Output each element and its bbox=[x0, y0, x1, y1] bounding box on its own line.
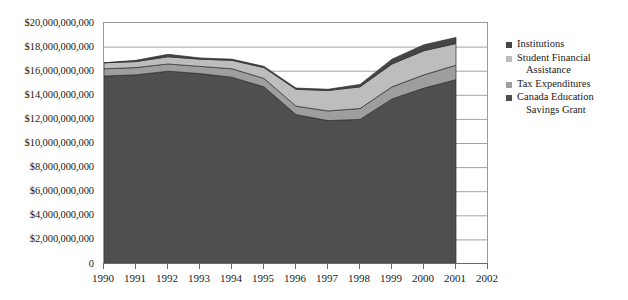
x-tick bbox=[199, 263, 200, 269]
x-tick bbox=[487, 263, 488, 269]
legend-label: Canada EducationSavings Grant bbox=[517, 91, 594, 116]
x-tick-label: 1991 bbox=[124, 272, 146, 285]
y-tick-label: $18,000,000,000 bbox=[25, 41, 94, 52]
legend-label: Institutions bbox=[517, 38, 564, 51]
x-tick bbox=[103, 263, 104, 269]
legend-item[interactable]: Tax Expenditures bbox=[506, 78, 626, 91]
legend-label-line2: Assistance bbox=[517, 64, 591, 77]
x-tick bbox=[327, 263, 328, 269]
x-axis-ticks bbox=[0, 263, 628, 271]
x-tick bbox=[135, 263, 136, 269]
x-tick-label: 1990 bbox=[92, 272, 114, 285]
legend-swatch-icon bbox=[506, 95, 512, 101]
plot-area bbox=[103, 22, 488, 264]
stacked-area-chart: $20,000,000,000 $18,000,000,000 $16,000,… bbox=[0, 0, 628, 300]
y-tick-label: $6,000,000,000 bbox=[30, 185, 94, 196]
x-tick bbox=[263, 263, 264, 269]
x-tick-label: 1994 bbox=[220, 272, 242, 285]
x-tick-label: 2001 bbox=[444, 272, 466, 285]
x-tick-label: 2000 bbox=[412, 272, 434, 285]
legend-swatch-icon bbox=[506, 82, 512, 88]
legend-item[interactable]: Institutions bbox=[506, 38, 626, 51]
x-tick bbox=[167, 263, 168, 269]
x-tick-label: 1999 bbox=[380, 272, 402, 285]
legend-label-line2: Savings Grant bbox=[517, 104, 594, 117]
x-axis: 1990199119921993199419951996199719981999… bbox=[0, 272, 628, 292]
y-tick-label: $12,000,000,000 bbox=[25, 113, 94, 124]
legend-label: Student FinancialAssistance bbox=[517, 52, 591, 77]
x-tick bbox=[295, 263, 296, 269]
x-tick-label: 1996 bbox=[284, 272, 306, 285]
x-tick-label: 1993 bbox=[188, 272, 210, 285]
y-axis: $20,000,000,000 $18,000,000,000 $16,000,… bbox=[0, 0, 98, 300]
y-tick-label: $16,000,000,000 bbox=[25, 65, 94, 76]
x-tick bbox=[231, 263, 232, 269]
x-tick-label: 1997 bbox=[316, 272, 338, 285]
x-tick-label: 1995 bbox=[252, 272, 274, 285]
legend-item[interactable]: Student FinancialAssistance bbox=[506, 52, 626, 77]
chart-legend: InstitutionsStudent FinancialAssistanceT… bbox=[506, 38, 626, 117]
area-series-svg bbox=[104, 23, 488, 264]
x-tick-label: 2002 bbox=[476, 272, 498, 285]
x-tick bbox=[391, 263, 392, 269]
legend-item[interactable]: Canada EducationSavings Grant bbox=[506, 91, 626, 116]
x-tick-label: 1998 bbox=[348, 272, 370, 285]
y-tick-label: $8,000,000,000 bbox=[30, 161, 94, 172]
x-tick bbox=[359, 263, 360, 269]
legend-swatch-icon bbox=[506, 56, 512, 62]
y-tick-label: $20,000,000,000 bbox=[25, 17, 94, 28]
plot-right-edge bbox=[487, 22, 488, 264]
x-tick bbox=[423, 263, 424, 269]
x-tick-label: 1992 bbox=[156, 272, 178, 285]
y-tick-label: $10,000,000,000 bbox=[25, 137, 94, 148]
y-tick-label: $14,000,000,000 bbox=[25, 89, 94, 100]
legend-label: Tax Expenditures bbox=[517, 78, 591, 91]
y-tick-label: $4,000,000,000 bbox=[30, 209, 94, 220]
legend-swatch-icon bbox=[506, 42, 512, 48]
x-tick bbox=[455, 263, 456, 269]
y-tick-label: $2,000,000,000 bbox=[30, 233, 94, 244]
